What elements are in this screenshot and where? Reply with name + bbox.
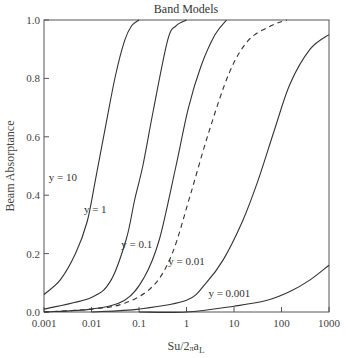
x-tick-label: 0.1	[132, 317, 146, 329]
x-tick-label: 1	[184, 317, 190, 329]
curves	[44, 20, 329, 312]
y-tick-label: 0.6	[26, 131, 40, 143]
curve-labels: y = 10y = 1y = 0.1y = 0.01y = 0.001	[49, 171, 251, 300]
curve-label: y = 10	[49, 171, 78, 183]
curve-y-10	[44, 20, 139, 295]
y-tick-label: 0.8	[26, 72, 40, 84]
curve-label: y = 1	[84, 203, 107, 215]
x-tick-label: 10	[229, 317, 241, 329]
curve-label: y = 0.01	[168, 255, 204, 267]
x-axis-label: Su/2πaL	[168, 339, 205, 355]
curve-label: y = 0.1	[121, 238, 152, 250]
curve-y-1	[44, 20, 187, 309]
curve-y-0-01	[92, 35, 330, 312]
y-axis-label: Beam Absorptance	[3, 121, 17, 212]
x-tick-label: 0.001	[32, 317, 57, 329]
x-tick-label: 0.01	[82, 317, 101, 329]
curve-label: y = 0.001	[208, 287, 250, 299]
y-axis-ticks: 0.00.20.40.60.81.0	[26, 14, 49, 318]
x-tick-label: 1000	[318, 317, 341, 329]
curve-dashed	[44, 20, 287, 312]
y-tick-label: 0.2	[26, 248, 40, 260]
y-tick-label: 0.4	[26, 189, 40, 201]
band-models-chart: Band Models 0.00.20.40.60.81.0 0.0010.01…	[0, 0, 348, 358]
x-tick-label: 100	[273, 317, 290, 329]
y-tick-label: 1.0	[26, 14, 40, 26]
chart-title: Band Models	[154, 2, 219, 16]
plot-frame	[44, 20, 329, 312]
